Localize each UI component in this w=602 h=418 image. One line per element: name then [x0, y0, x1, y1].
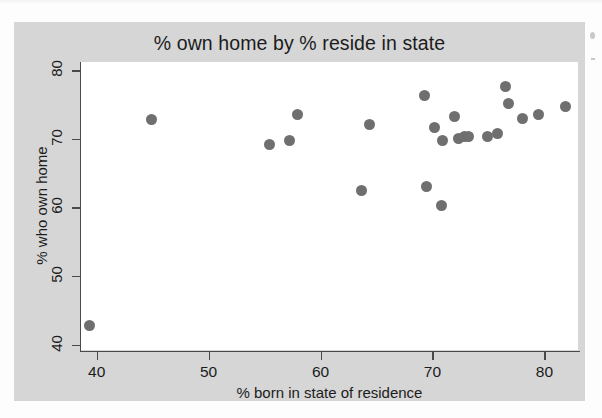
- plot-area: [81, 62, 578, 350]
- y-tick-mark: [72, 207, 80, 208]
- scatter-point: [500, 81, 511, 92]
- x-axis-title: % born in state of residence: [81, 384, 578, 401]
- scatter-point: [560, 101, 571, 112]
- scatter-point: [284, 135, 295, 146]
- chart-title: % own home by % reside in state: [14, 32, 585, 55]
- x-tick-label: 50: [189, 363, 229, 381]
- scatter-plot-figure: % own home by % reside in state 40506070…: [14, 22, 585, 401]
- y-axis-line: [80, 62, 81, 352]
- y-tick-label: 50: [48, 262, 65, 286]
- y-tick-label: 80: [48, 57, 65, 81]
- scatter-point: [146, 114, 157, 125]
- x-tick-label: 80: [524, 363, 564, 381]
- x-tick-mark: [432, 352, 433, 360]
- scatter-point: [429, 122, 440, 133]
- y-tick-mark: [72, 276, 80, 277]
- scatter-point: [419, 90, 430, 101]
- x-tick-mark: [97, 352, 98, 360]
- scatter-point: [437, 135, 448, 146]
- scatter-point: [533, 109, 544, 120]
- scatter-point: [264, 139, 275, 150]
- y-tick-mark: [72, 139, 80, 140]
- artifact-mark: [591, 58, 595, 60]
- x-tick-label: 70: [412, 363, 452, 381]
- y-tick-label: 70: [48, 125, 65, 149]
- scatter-point: [84, 320, 95, 331]
- scatter-point: [449, 111, 460, 122]
- y-tick-label: 40: [48, 331, 65, 355]
- scatter-point: [292, 109, 303, 120]
- scatter-point: [436, 200, 447, 211]
- scatter-point: [517, 113, 528, 124]
- x-tick-mark: [544, 352, 545, 360]
- x-axis-line: [80, 351, 580, 352]
- artifact-mark: [590, 32, 595, 39]
- scatter-point: [503, 98, 514, 109]
- page-margin-artifacts: [588, 28, 602, 88]
- scatter-point: [421, 181, 432, 192]
- y-tick-label: 60: [48, 194, 65, 218]
- y-tick-mark: [72, 70, 80, 71]
- x-tick-mark: [321, 352, 322, 360]
- x-tick-mark: [209, 352, 210, 360]
- scatter-point: [356, 185, 367, 196]
- scatter-point: [364, 119, 375, 130]
- x-tick-label: 40: [77, 363, 117, 381]
- y-axis-title: % who own home: [33, 106, 50, 306]
- scatter-point: [463, 131, 474, 142]
- x-tick-label: 60: [301, 363, 341, 381]
- y-tick-mark: [72, 345, 80, 346]
- scan-edge-artifact: [0, 0, 602, 5]
- scatter-point: [492, 128, 503, 139]
